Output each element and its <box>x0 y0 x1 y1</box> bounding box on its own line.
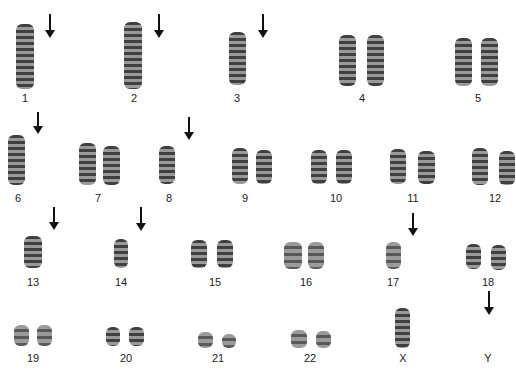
chromosome-label-5: 5 <box>458 92 498 104</box>
chromosome-label-12: 12 <box>475 192 515 204</box>
chromosome-5-copy-a <box>455 38 472 86</box>
chromosome-15-copy-b <box>217 240 233 268</box>
chromosome-label-3: 3 <box>217 92 257 104</box>
chromosome-3-copy-a <box>229 32 246 85</box>
chromosome-6-copy-a <box>8 135 25 185</box>
chromosome-16-copy-a <box>284 242 302 269</box>
chromosome-4-copy-b <box>367 35 384 86</box>
chromosome-label-19: 19 <box>13 352 53 364</box>
chromosome-label-20: 20 <box>106 352 146 364</box>
chromosome-2-copy-a <box>124 22 142 89</box>
chromosome-20-copy-b <box>129 327 144 346</box>
chromosome-17-copy-a <box>386 242 401 269</box>
chromosome-label-x: X <box>383 352 423 364</box>
chromosome-18-copy-a <box>466 244 481 269</box>
chromosome-21-copy-b <box>222 334 236 348</box>
chromosome-8-copy-a <box>159 146 175 184</box>
chromosome-label-17: 17 <box>373 276 413 288</box>
chromosome-label-9: 9 <box>225 192 265 204</box>
chromosome-label-22: 22 <box>290 352 330 364</box>
chromosome-label-1: 1 <box>5 92 45 104</box>
chromosome-x-copy-a <box>395 308 410 348</box>
chromosome-12-copy-a <box>472 148 488 185</box>
chromosome-label-10: 10 <box>316 192 356 204</box>
chromosome-20-copy-a <box>106 327 120 346</box>
chromosome-10-copy-b <box>336 150 352 184</box>
chromosome-12-copy-b <box>499 151 515 185</box>
chromosome-10-copy-a <box>311 150 327 184</box>
chromosome-label-8: 8 <box>149 192 189 204</box>
chromosome-label-7: 7 <box>78 192 118 204</box>
chromosome-label-21: 21 <box>198 352 238 364</box>
chromosome-7-copy-b <box>103 146 120 185</box>
chromosome-label-16: 16 <box>286 276 326 288</box>
chromosome-21-copy-a <box>198 332 213 348</box>
chromosome-label-y: Y <box>468 352 508 364</box>
chromosome-19-copy-a <box>14 325 29 346</box>
chromosome-9-copy-b <box>256 150 272 184</box>
chromosome-label-18: 18 <box>468 276 508 288</box>
chromosome-5-copy-b <box>481 38 498 86</box>
chromosome-11-copy-b <box>418 151 435 184</box>
chromosome-label-15: 15 <box>195 276 235 288</box>
chromosome-label-11: 11 <box>393 192 433 204</box>
chromosome-1-copy-a <box>16 24 34 89</box>
chromosome-4-copy-a <box>339 35 356 86</box>
chromosome-13-copy-a <box>24 236 42 268</box>
chromosome-label-6: 6 <box>0 192 38 204</box>
chromosome-16-copy-b <box>308 242 324 269</box>
chromosome-22-copy-b <box>316 331 331 348</box>
chromosome-label-4: 4 <box>342 92 382 104</box>
chromosome-11-copy-a <box>390 149 406 184</box>
chromosome-label-13: 13 <box>13 276 53 288</box>
chromosome-18-copy-b <box>491 245 506 270</box>
chromosome-14-copy-a <box>114 239 128 268</box>
chromosome-9-copy-a <box>232 148 248 184</box>
chromosome-15-copy-a <box>191 240 207 268</box>
chromosome-19-copy-b <box>37 325 52 346</box>
chromosome-22-copy-a <box>291 330 307 348</box>
chromosome-7-copy-a <box>79 143 96 185</box>
chromosome-label-14: 14 <box>101 276 141 288</box>
chromosome-label-2: 2 <box>114 92 154 104</box>
